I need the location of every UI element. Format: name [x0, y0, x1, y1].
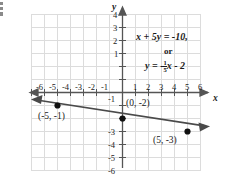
y-tick-label-2: 2 [113, 37, 117, 46]
x-tick-label-neg2: -2 [88, 83, 95, 92]
x-axis-label: x [213, 94, 218, 104]
x-tick-label-1: 1 [133, 83, 137, 92]
line-arrow-right [200, 124, 209, 131]
x-tick-label-4: 4 [172, 83, 176, 92]
graph-figure: y x -6 -5 -4 -3 -2 -1 1 2 3 4 5 6 4 3 2 … [0, 0, 230, 182]
x-tick-label-6: 6 [198, 83, 202, 92]
equation-slope-intercept-form: y = -15x - 2 [145, 60, 185, 74]
y-tick-label-1: 1 [114, 50, 118, 59]
y-tick-label-neg5: -5 [108, 154, 115, 163]
x-tick-label-3: 3 [159, 83, 163, 92]
y-tick-label-neg3: -3 [108, 128, 115, 137]
x-tick-label-neg6: -6 [36, 83, 43, 92]
equation-rhs: x - 2 [167, 60, 185, 71]
x-tick-label-neg1: -1 [101, 83, 108, 92]
line-arrow-left [33, 96, 42, 103]
slope-fraction: 15 [163, 60, 166, 74]
point-label-5-neg3: (5, -3) [153, 136, 177, 146]
y-tick-label-3: 3 [113, 24, 117, 33]
data-point-5-neg3 [184, 128, 190, 134]
data-point-neg5-neg1 [54, 102, 60, 108]
equation-lhs: y = - [145, 60, 163, 71]
x-tick-label-5: 5 [185, 83, 189, 92]
y-tick-label-neg6: -6 [108, 167, 115, 176]
point-label-0-neg2: (0, -2) [126, 99, 150, 109]
data-point-0-neg2 [119, 115, 125, 121]
y-tick-label-neg4: -4 [108, 141, 115, 150]
fraction-denominator: 5 [163, 66, 166, 74]
point-label-neg5-neg1: (-5, -1) [38, 112, 65, 122]
y-axis-arrow-up [119, 7, 126, 15]
fraction-numerator: 1 [163, 60, 166, 67]
x-tick-label-neg5: -5 [49, 83, 56, 92]
y-tick-label-neg1: -1 [108, 95, 115, 104]
equation-standard-form: x + 5y = -10, [136, 32, 188, 42]
equation-or-connector: or [164, 47, 173, 56]
x-tick-label-neg3: -3 [75, 83, 82, 92]
x-tick-label-neg4: -4 [62, 83, 69, 92]
y-tick-label-4: 4 [113, 11, 117, 20]
x-tick-label-2: 2 [146, 83, 150, 92]
